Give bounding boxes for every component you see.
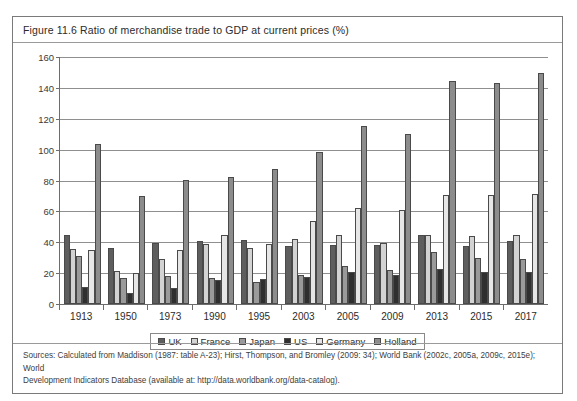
x-axis-label-1950: 1950 [103,311,147,327]
x-axis-label-1990: 1990 [192,311,236,327]
x-axis-label-1913: 1913 [59,311,103,327]
x-axis-label-1973: 1973 [148,311,192,327]
y-tick-label-0: 0 [49,299,54,310]
figure-caption-bar: Figure 11.6 Ratio of merchandise trade t… [13,17,562,43]
bar-group-1995 [237,57,281,304]
x-tick-mark-2017 [503,305,504,310]
y-tick-label-160: 160 [38,52,54,63]
bar-group-2017 [504,57,548,304]
figure-container: Figure 11.6 Ratio of merchandise trade t… [12,16,563,394]
figure-caption: Figure 11.6 Ratio of merchandise trade t… [13,24,349,36]
y-tick-label-40: 40 [43,237,54,248]
y-tick-label-120: 120 [38,113,54,124]
y-tick-label-60: 60 [43,206,54,217]
sources-line-2: Development Indicators Database (availab… [23,375,550,388]
x-axis-label-2015: 2015 [459,311,503,327]
bar-group-2013 [415,57,459,304]
x-axis-labels: 1913195019731990199520032005200920132015… [59,311,548,327]
bar-holland-2005 [361,126,367,304]
bar-group-2005 [326,57,370,304]
x-axis-label-2005: 2005 [326,311,370,327]
x-axis-label-2017: 2017 [504,311,548,327]
x-tick-mark-1973 [147,305,148,310]
figure-page: Figure 11.6 Ratio of merchandise trade t… [0,0,577,401]
x-axis-label-2003: 2003 [281,311,325,327]
x-tick-mark-1990 [192,305,193,310]
bar-group-1973 [149,57,193,304]
bar-holland-1913 [95,144,101,304]
x-tick-mark-2015 [459,305,460,310]
bar-group-1990 [193,57,237,304]
bar-holland-2003 [316,152,322,304]
y-tick-label-100: 100 [38,144,54,155]
bar-holland-1995 [272,169,278,304]
x-axis-label-2013: 2013 [415,311,459,327]
bar-group-2015 [459,57,503,304]
y-tick-label-20: 20 [43,268,54,279]
x-tick-mark-2009 [370,305,371,310]
bar-group-2009 [371,57,415,304]
bar-group-2003 [282,57,326,304]
chart-plot: 020406080100120140160 [59,57,548,305]
bar-group-1950 [104,57,148,304]
bar-holland-1990 [228,177,234,304]
bar-holland-1973 [183,180,189,304]
bar-holland-2013 [449,81,455,304]
x-tick-mark-2005 [325,305,326,310]
bar-holland-2009 [405,134,411,304]
x-axis-label-2009: 2009 [370,311,414,327]
x-tick-mark-2013 [414,305,415,310]
x-tick-mark-2003 [281,305,282,310]
x-tick-mark-1995 [236,305,237,310]
x-axis-label-1995: 1995 [237,311,281,327]
x-tick-mark-1950 [103,305,104,310]
bar-group-1913 [60,57,104,304]
sources-note: Sources: Calculated from Maddison (1987:… [13,343,562,393]
x-tick-mark-1913 [59,305,60,310]
bar-holland-1950 [139,196,145,304]
bar-holland-2017 [538,73,544,304]
chart-axes: 020406080100120140160 [59,57,548,305]
bar-holland-2015 [494,83,500,304]
bar-groups [60,57,548,304]
y-tick-label-80: 80 [43,175,54,186]
y-tick-label-140: 140 [38,82,54,93]
sources-line-1: Sources: Calculated from Maddison (1987:… [23,350,550,375]
plot-area: 020406080100120140160 191319501973199019… [13,43,562,343]
